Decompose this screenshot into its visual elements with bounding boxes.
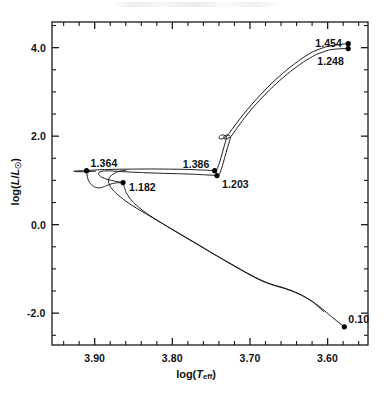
track-track-lower [99, 49, 349, 183]
hr-diagram-figure: 1.4541.2481.3641.1821.3861.2030.103.903.… [0, 0, 392, 395]
y-axis-title-variable: L [9, 179, 21, 186]
point-label: 1.454 [315, 37, 342, 49]
y-axis-title-post: ) [9, 158, 21, 162]
endpoint-marker [346, 41, 351, 46]
x-axis-title-post: ) [212, 368, 216, 380]
point-label: 0.10 [348, 313, 369, 325]
x-axis-title-pre: log( [176, 368, 196, 380]
x-tick-label: 3.60 [317, 352, 338, 364]
y-tick-label: 0.0 [31, 219, 46, 231]
x-tick-label: 3.80 [162, 352, 183, 364]
point-label: 1.203 [222, 178, 249, 190]
track-pre-main-sequence-branch-2 [123, 183, 324, 312]
evolutionary-tracks [74, 44, 348, 327]
plot-frame [52, 22, 368, 345]
y-axis-title-pre: log( [9, 185, 21, 205]
track-pre-main-sequence-descent [109, 170, 345, 327]
point-label: 1.364 [91, 157, 118, 169]
endpoint-marker [84, 168, 89, 173]
point-label: 1.386 [183, 158, 210, 170]
y-axis-title-subscript: ☉ [14, 162, 23, 169]
x-axis-title-subscript: eff [203, 372, 212, 381]
y-axis-title-variable-2: L [9, 169, 21, 176]
point-label: 1.248 [317, 55, 344, 67]
x-axis-title: log(Teff) [0, 368, 392, 381]
track-turn-to-left-hook [87, 171, 123, 188]
axes-frame [52, 22, 368, 345]
y-tick-label: 2.0 [31, 130, 46, 142]
endpoint-marker [214, 173, 219, 178]
endpoint-marker [346, 46, 351, 51]
x-tick-label: 3.90 [84, 352, 105, 364]
y-tick-label: 4.0 [31, 42, 46, 54]
endpoint-marker [120, 180, 125, 185]
endpoint-marker [212, 168, 217, 173]
endpoint-marker [342, 324, 347, 329]
axis-ticks [52, 22, 368, 345]
y-axis-title-slash: / [9, 175, 21, 178]
x-tick-label: 3.70 [240, 352, 261, 364]
track-track-upper [87, 44, 349, 171]
point-label: 1.182 [129, 181, 156, 193]
y-axis-title: log(L/L☉) [9, 122, 22, 242]
y-tick-label: -2.0 [27, 307, 46, 319]
